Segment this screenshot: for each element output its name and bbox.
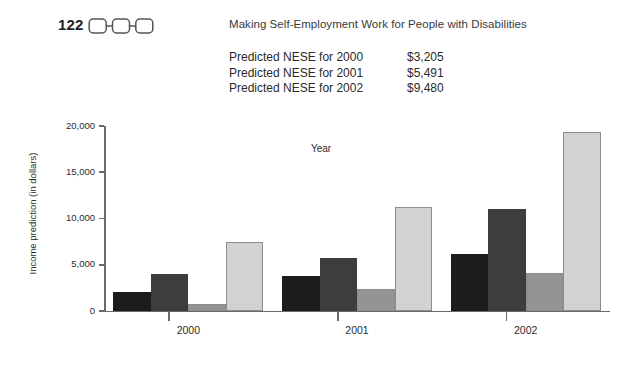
prediction-label: Predicted NESE for 2001 xyxy=(229,66,407,80)
x-tick-label-2002: 2002 xyxy=(514,324,537,336)
bar-2001-series-4 xyxy=(395,207,433,311)
bar-2000-series-1 xyxy=(113,292,151,311)
bar-2000-series-4 xyxy=(226,242,264,311)
x-axis-tick xyxy=(168,312,170,321)
page-number: 122 xyxy=(58,16,84,33)
predicted-nese-block: Predicted NESE for 2000$3,205Predicted N… xyxy=(229,50,444,97)
y-tick-label: 15,000 xyxy=(66,166,95,177)
prediction-row: Predicted NESE for 2000$3,205 xyxy=(229,50,444,66)
prediction-label: Predicted NESE for 2000 xyxy=(229,50,407,64)
prediction-value: $9,480 xyxy=(407,81,444,95)
book-page: 122 Making Self-Employment Work for Peop… xyxy=(0,0,642,366)
three-linked-rounded-squares-icon xyxy=(88,16,172,36)
bar-2000-series-2 xyxy=(151,274,189,311)
prediction-row: Predicted NESE for 2001$5,491 xyxy=(229,66,444,82)
bar-2002-series-4 xyxy=(563,132,601,311)
x-axis-tick xyxy=(337,312,339,321)
bar-2001-series-1 xyxy=(282,276,320,311)
bar-2001-series-3 xyxy=(357,289,395,311)
y-axis-title: Income prediction (in dollars) xyxy=(27,134,38,294)
income-prediction-bar-chart: Income prediction (in dollars) 05,00010,… xyxy=(0,112,642,366)
x-tick-label-2000: 2000 xyxy=(177,324,200,336)
prediction-value: $5,491 xyxy=(407,66,444,80)
y-tick-mark xyxy=(99,171,104,173)
x-axis-ticks: 200020012002 xyxy=(0,312,642,366)
bar-2002-series-2 xyxy=(488,209,526,311)
bar-2001-series-2 xyxy=(320,258,358,311)
y-tick-label: 10,000 xyxy=(66,212,95,223)
y-tick-label: 20,000 xyxy=(66,120,95,131)
prediction-label: Predicted NESE for 2002 xyxy=(229,81,407,95)
y-tick-mark xyxy=(99,264,104,266)
prediction-value: $3,205 xyxy=(407,50,444,64)
prediction-row: Predicted NESE for 2002$9,480 xyxy=(229,81,444,97)
bar-2002-series-1 xyxy=(451,254,489,311)
x-axis-tick xyxy=(506,312,508,321)
x-tick-label-2001: 2001 xyxy=(345,324,368,336)
y-tick-mark xyxy=(99,218,104,220)
bar-2002-series-3 xyxy=(526,273,564,311)
page-header: 122 Making Self-Employment Work for Peop… xyxy=(0,0,642,46)
x-axis-title: Year xyxy=(0,143,642,154)
y-tick-mark xyxy=(99,125,104,127)
running-head-title: Making Self-Employment Work for People w… xyxy=(229,18,527,30)
bar-2000-series-3 xyxy=(188,304,226,311)
y-tick-label: 5,000 xyxy=(71,258,95,269)
